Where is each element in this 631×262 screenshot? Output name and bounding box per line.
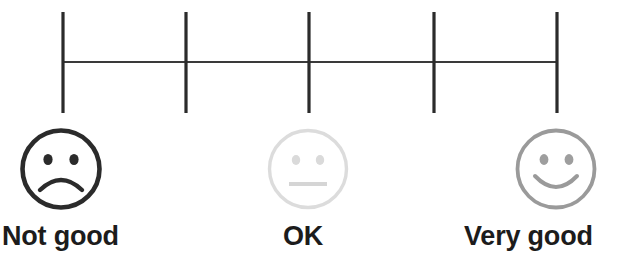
smiling-face-icon[interactable] [513,126,599,212]
rating-scale-widget: Not good OK Very good [0,0,631,262]
frowning-face-left-eye [43,154,52,165]
scale-label-not-good[interactable]: Not good [2,219,119,253]
likert-scale-axis[interactable] [0,0,631,125]
frowning-face-mouth [40,180,82,190]
smiling-face-outline [518,131,595,208]
scale-label-ok[interactable]: OK [283,219,323,253]
frowning-face-outline [23,131,100,208]
smiling-face-right-eye [565,154,574,165]
neutral-face-right-eye [316,155,324,165]
smiling-face-mouth [535,176,577,187]
frowning-face-right-eye [69,154,78,165]
neutral-face-left-eye [292,155,300,165]
neutral-face-icon[interactable] [265,126,351,212]
neutral-face-outline [270,131,347,208]
scale-label-very-good[interactable]: Very good [464,219,593,253]
frowning-face-icon[interactable] [18,126,104,212]
smiling-face-left-eye [540,154,549,165]
